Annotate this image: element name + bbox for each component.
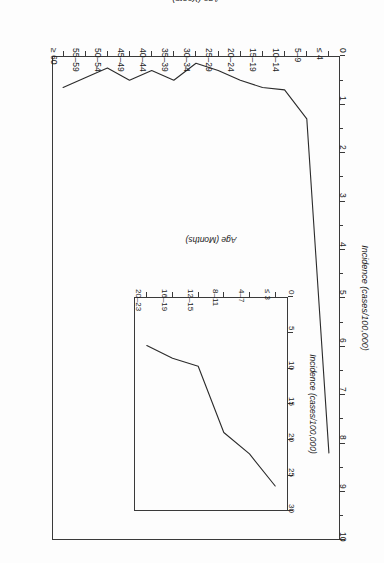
inset-incidence-line bbox=[147, 346, 275, 487]
x-tick bbox=[198, 292, 199, 297]
y-tick-label: 15 bbox=[287, 397, 296, 406]
rotated-figure-container: ≤ 45–910–1415–1920–2425–2930–3435–3940–4… bbox=[0, 0, 384, 563]
x-tick-label: 16–19 bbox=[160, 289, 169, 311]
inset-plot-line-layer bbox=[0, 0, 384, 563]
x-tick-label: 12–15 bbox=[186, 289, 195, 311]
y-tick-label: 5 bbox=[287, 326, 296, 330]
x-tick bbox=[172, 292, 173, 297]
inset-y-axis-title: Incidence (cases/100,000) bbox=[308, 354, 318, 454]
inset-x-axis-title: Age (Months) bbox=[185, 235, 236, 245]
figure-page: ≤ 45–910–1415–1920–2425–2930–3435–3940–4… bbox=[0, 0, 384, 563]
x-tick-label: 4–7 bbox=[237, 289, 246, 302]
x-tick bbox=[275, 292, 276, 297]
y-tick-label: 10 bbox=[287, 361, 296, 370]
x-tick bbox=[146, 292, 147, 297]
y-tick-label: 25 bbox=[287, 468, 296, 477]
incidence-by-age-figure: ≤ 45–910–1415–1920–2425–2930–3435–3940–4… bbox=[0, 0, 384, 563]
x-tick-label: ≤ 3 bbox=[263, 289, 272, 300]
x-tick bbox=[249, 292, 250, 297]
y-tick-label: 30 bbox=[287, 504, 296, 513]
y-tick-label: 20 bbox=[287, 433, 296, 442]
y-tick-label: 0 bbox=[287, 290, 296, 294]
y-tick bbox=[288, 297, 293, 298]
x-tick-label: 8–11 bbox=[211, 289, 220, 306]
x-tick-label: 20–23 bbox=[134, 289, 143, 311]
y-tick bbox=[288, 332, 293, 333]
x-tick bbox=[223, 292, 224, 297]
